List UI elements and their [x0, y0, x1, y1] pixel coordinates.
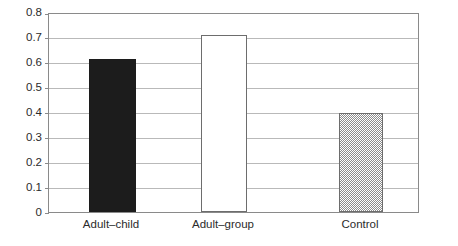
bar-adult-child	[89, 59, 136, 212]
y-tick-mark-3	[45, 138, 49, 139]
bar-adult-group	[201, 35, 247, 212]
y-tick-mark-5	[45, 88, 49, 89]
y-tick-label-0: 0	[0, 207, 42, 219]
y-tick-mark-1	[45, 188, 49, 189]
y-tick-label-8: 0.8	[0, 7, 42, 19]
y-tick-mark-6	[45, 63, 49, 64]
y-tick-label-3: 0.3	[0, 132, 42, 144]
bar-chart: 0 0.1 0.2 0.3 0.4 0.5 0.6 0.7 0.8	[0, 0, 458, 246]
x-axis-tick-labels: Adult–child Adult–group Control	[48, 218, 419, 240]
x-tick-label-control: Control	[341, 218, 378, 232]
y-tick-mark-0	[45, 213, 49, 214]
y-tick-label-7: 0.7	[0, 32, 42, 44]
plot-area	[48, 13, 419, 213]
y-tick-label-5: 0.5	[0, 82, 42, 94]
y-tick-mark-8	[45, 14, 49, 15]
y-tick-mark-4	[45, 113, 49, 114]
bar-control	[339, 113, 383, 212]
y-tick-label-1: 0.1	[0, 182, 42, 194]
y-tick-mark-2	[45, 163, 49, 164]
y-tick-mark-7	[45, 38, 49, 39]
x-tick-label-adult-child: Adult–child	[83, 218, 139, 232]
x-tick-label-adult-group: Adult–group	[192, 218, 254, 232]
y-tick-label-2: 0.2	[0, 157, 42, 169]
y-axis-tick-labels: 0 0.1 0.2 0.3 0.4 0.5 0.6 0.7 0.8	[0, 13, 42, 213]
y-tick-label-6: 0.6	[0, 57, 42, 69]
y-tick-label-4: 0.4	[0, 107, 42, 119]
